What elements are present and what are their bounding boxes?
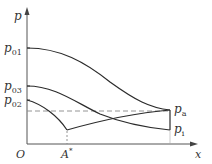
x-axis-label: x (195, 148, 202, 161)
label-pa: pa (174, 102, 187, 118)
y-axis-label: p (14, 9, 22, 23)
x-axis-arrow-icon (190, 142, 198, 147)
y-axis-arrow-icon (25, 7, 30, 15)
curve-p01 (27, 48, 170, 110)
label-pi: pi (174, 122, 185, 138)
label-p02: p02 (4, 93, 22, 109)
label-p01: p01 (4, 41, 22, 57)
curve-p02-descent (27, 100, 67, 130)
curve-p03 (27, 86, 170, 130)
origin-label: O (16, 148, 25, 161)
label-a-star: A* (60, 147, 73, 161)
pressure-diagram: p x O p01 p03 p02 A* pa pi (0, 0, 212, 164)
